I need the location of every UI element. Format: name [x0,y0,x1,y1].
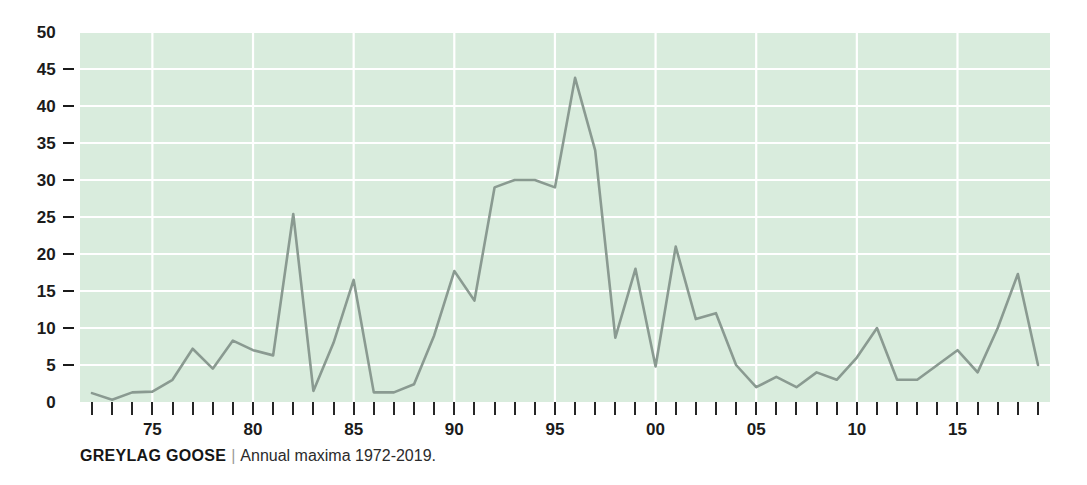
x-tick-2014 [936,402,938,415]
y-tick-mark [63,68,74,70]
y-tick-0: 0 [0,392,80,412]
x-tick-1998 [614,402,616,415]
x-tick-1975 [151,402,153,415]
x-tick-1999 [634,402,636,415]
x-tick-1988 [413,402,415,415]
x-tick-1981 [272,402,274,415]
x-tick-2005 [755,402,757,415]
x-tick-label-15: 15 [948,420,967,440]
y-tick-label: 20 [37,246,56,263]
x-tick-1995 [554,402,556,415]
chart-figure: 05101520253035404550 758085909500051015 … [0,0,1087,485]
x-tick-2015 [956,402,958,415]
y-tick-30: 30 [0,170,80,190]
x-tick-label-00: 00 [646,420,665,440]
x-tick-1984 [333,402,335,415]
x-tick-2007 [795,402,797,415]
x-tick-label-80: 80 [244,420,263,440]
y-tick-label: 40 [37,98,56,115]
y-tick-35: 35 [0,133,80,153]
x-tick-1979 [232,402,234,415]
x-tick-2000 [655,402,657,415]
x-tick-label-75: 75 [143,420,162,440]
y-tick-50: 50 [0,22,80,42]
y-tick-40: 40 [0,96,80,116]
x-tick-1994 [534,402,536,415]
y-tick-mark [63,216,74,218]
x-tick-1973 [111,402,113,415]
y-tick-label: 50 [37,24,56,41]
x-tick-label-85: 85 [344,420,363,440]
x-tick-2011 [876,402,878,415]
x-tick-1982 [292,402,294,415]
caption-title: GREYLAG GOOSE [80,447,226,464]
y-tick-mark [63,179,74,181]
caption: GREYLAG GOOSE|Annual maxima 1972-2019. [80,446,436,465]
y-tick-mark [63,31,74,33]
x-tick-2016 [977,402,979,415]
y-tick-mark [63,364,74,366]
x-tick-2018 [1017,402,1019,415]
y-tick-label: 5 [46,357,56,374]
x-tick-2006 [775,402,777,415]
x-tick-2003 [715,402,717,415]
x-tick-2019 [1037,402,1039,415]
y-tick-label: 35 [37,135,56,152]
caption-separator: | [231,447,235,464]
y-tick-label: 0 [46,394,56,411]
y-tick-mark [63,401,74,403]
x-tick-1989 [433,402,435,415]
y-tick-mark [63,105,74,107]
x-tick-2017 [997,402,999,415]
x-tick-1991 [473,402,475,415]
y-tick-label: 30 [37,172,56,189]
x-tick-1974 [131,402,133,415]
plot-svg [80,32,1050,402]
x-tick-1987 [393,402,395,415]
x-tick-1992 [494,402,496,415]
y-tick-label: 15 [37,283,56,300]
x-tick-1997 [594,402,596,415]
x-tick-label-05: 05 [747,420,766,440]
x-tick-2009 [836,402,838,415]
y-tick-mark [63,253,74,255]
y-tick-label: 10 [37,320,56,337]
x-tick-2004 [735,402,737,415]
x-tick-1985 [353,402,355,415]
x-tick-2008 [816,402,818,415]
x-tick-2002 [695,402,697,415]
x-tick-1977 [192,402,194,415]
x-tick-label-90: 90 [445,420,464,440]
x-tick-1972 [91,402,93,415]
x-tick-1990 [453,402,455,415]
y-tick-label: 25 [37,209,56,226]
x-tick-1983 [312,402,314,415]
y-tick-label: 45 [37,61,56,78]
y-tick-20: 20 [0,244,80,264]
y-tick-mark [63,142,74,144]
data-line-series [92,78,1038,400]
plot-area [80,32,1050,402]
x-tick-1978 [212,402,214,415]
x-tick-1993 [514,402,516,415]
x-tick-1980 [252,402,254,415]
x-tick-1976 [172,402,174,415]
x-tick-2012 [896,402,898,415]
x-tick-label-95: 95 [545,420,564,440]
caption-subtitle: Annual maxima 1972-2019. [240,447,436,464]
x-tick-2013 [916,402,918,415]
y-tick-5: 5 [0,355,80,375]
gridlines [80,32,1050,402]
y-tick-25: 25 [0,207,80,227]
y-axis: 05101520253035404550 [0,32,80,402]
x-tick-1996 [574,402,576,415]
x-tick-1986 [373,402,375,415]
x-tick-2010 [856,402,858,415]
x-tick-2001 [675,402,677,415]
y-tick-mark [63,290,74,292]
y-tick-15: 15 [0,281,80,301]
y-tick-45: 45 [0,59,80,79]
y-tick-10: 10 [0,318,80,338]
x-tick-label-10: 10 [847,420,866,440]
y-tick-mark [63,327,74,329]
